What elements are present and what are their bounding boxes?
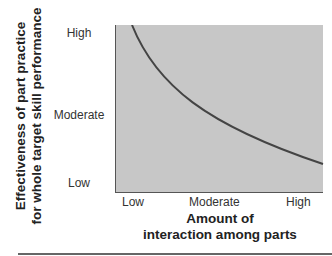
plot-area <box>115 25 323 193</box>
x-axis-label-line-2: interaction among parts <box>115 227 325 243</box>
y-tick-low: Low <box>44 176 114 190</box>
y-tick-high: High <box>44 26 114 40</box>
y-tick-moderate: Moderate <box>44 108 114 122</box>
effectiveness-curve <box>116 25 324 193</box>
divider-rule <box>18 253 332 255</box>
y-axis-label-line-2: for whole target skill performance <box>29 8 45 225</box>
x-axis-label: Amount of interaction among parts <box>115 211 325 243</box>
x-tick-low: Low <box>122 195 144 209</box>
x-tick-moderate: Moderate <box>189 195 240 209</box>
x-axis-label-line-1: Amount of <box>115 211 325 227</box>
y-axis-label-line-1: Effectiveness of part practice <box>13 8 29 225</box>
x-tick-high: High <box>286 195 311 209</box>
